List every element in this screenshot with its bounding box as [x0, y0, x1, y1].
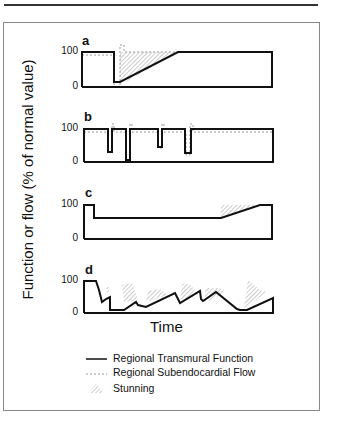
legend-item-flow: Regional Subendocardial Flow: [113, 366, 255, 378]
hatch-swatch-icon: [88, 384, 104, 393]
legend-item-stunning: Stunning: [113, 382, 154, 394]
legend-item-function: Regional Transmural Function: [113, 352, 253, 364]
